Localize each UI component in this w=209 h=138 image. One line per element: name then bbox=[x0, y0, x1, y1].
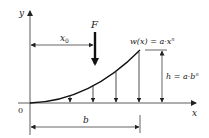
x0-dimension: x0 bbox=[31, 33, 93, 45]
force-label: F bbox=[90, 19, 99, 30]
x-axis: x bbox=[18, 103, 197, 118]
h-dimension: h = a·bn bbox=[145, 50, 199, 102]
load-curve bbox=[30, 50, 140, 103]
distributed-load-arrows bbox=[70, 52, 139, 102]
curve-label: w(x) = a·xn bbox=[130, 36, 174, 46]
y-axis-label: y bbox=[18, 8, 25, 18]
origin-label: 0 bbox=[18, 106, 23, 115]
h-label: h = a·bn bbox=[166, 71, 199, 81]
x-axis-label: x bbox=[192, 108, 197, 118]
b-dimension: b bbox=[31, 115, 140, 133]
y-axis: y bbox=[18, 8, 30, 135]
force-F: F bbox=[90, 19, 99, 64]
x0-label: x0 bbox=[60, 33, 69, 44]
b-label: b bbox=[83, 115, 89, 125]
load-diagram: x y 0 F x0 w(x) = a·xn h = a·bn b bbox=[0, 0, 209, 138]
